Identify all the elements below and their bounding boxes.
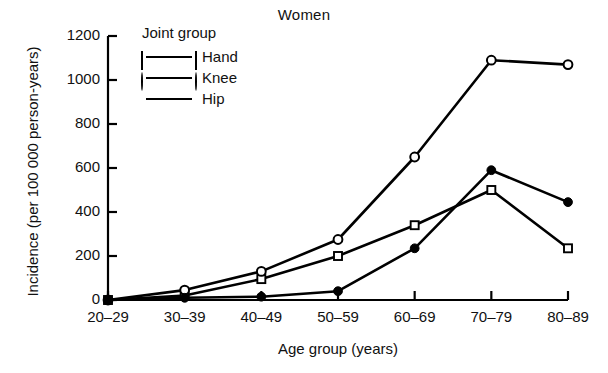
data-point-hip bbox=[410, 244, 419, 253]
series-line-knee bbox=[108, 60, 568, 300]
y-tick-label: 0 bbox=[40, 290, 100, 307]
data-point-hip bbox=[334, 287, 343, 296]
data-point-hand bbox=[487, 186, 495, 194]
series-layer bbox=[104, 56, 573, 305]
data-point-knee bbox=[564, 60, 573, 69]
y-tick-label: 1200 bbox=[40, 26, 100, 43]
data-point-knee bbox=[257, 267, 266, 276]
y-tick-label: 800 bbox=[40, 114, 100, 131]
data-point-knee bbox=[410, 153, 419, 162]
x-tick-label: 80–89 bbox=[528, 308, 608, 325]
data-point-hip bbox=[180, 293, 189, 302]
series-line-hand bbox=[108, 190, 568, 300]
data-point-hand bbox=[334, 252, 342, 260]
x-tick-label: 70–79 bbox=[451, 308, 531, 325]
x-tick-label: 20–29 bbox=[68, 308, 148, 325]
y-tick-label: 600 bbox=[40, 158, 100, 175]
y-tick-label: 1000 bbox=[40, 70, 100, 87]
data-point-hip bbox=[564, 198, 573, 207]
x-tick-label: 60–69 bbox=[375, 308, 455, 325]
data-point-hip bbox=[104, 296, 113, 305]
y-tick-label: 400 bbox=[40, 202, 100, 219]
data-point-knee bbox=[334, 235, 343, 244]
data-point-knee bbox=[487, 56, 496, 65]
chart-figure: Women Incidence (per 100 000 person-year… bbox=[0, 0, 608, 373]
data-point-hand bbox=[411, 221, 419, 229]
x-tick-label: 30–39 bbox=[145, 308, 225, 325]
x-tick-label: 40–49 bbox=[221, 308, 301, 325]
x-tick-label: 50–59 bbox=[298, 308, 378, 325]
data-point-hip bbox=[257, 292, 266, 301]
data-point-hand bbox=[564, 244, 572, 252]
y-tick-label: 200 bbox=[40, 246, 100, 263]
data-point-hip bbox=[487, 166, 496, 175]
